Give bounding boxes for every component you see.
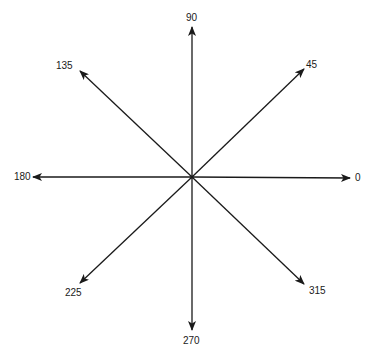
origin-point: [190, 175, 193, 178]
label-angle-135: 135: [56, 61, 73, 71]
label-angle-180: 180: [14, 172, 31, 182]
arrow-225-degrees: [80, 177, 192, 283]
label-angle-90: 90: [186, 13, 197, 23]
label-angle-0: 0: [355, 173, 361, 183]
label-angle-315: 315: [309, 286, 326, 296]
label-angle-270: 270: [183, 336, 200, 346]
arrow-45-degrees: [192, 69, 304, 177]
arrow-0-degrees: [192, 177, 350, 178]
label-angle-225: 225: [65, 288, 82, 298]
arrow-135-degrees: [80, 71, 192, 177]
arrow-315-degrees: [192, 177, 304, 284]
label-angle-45: 45: [306, 60, 317, 70]
direction-diagram: [0, 0, 373, 354]
